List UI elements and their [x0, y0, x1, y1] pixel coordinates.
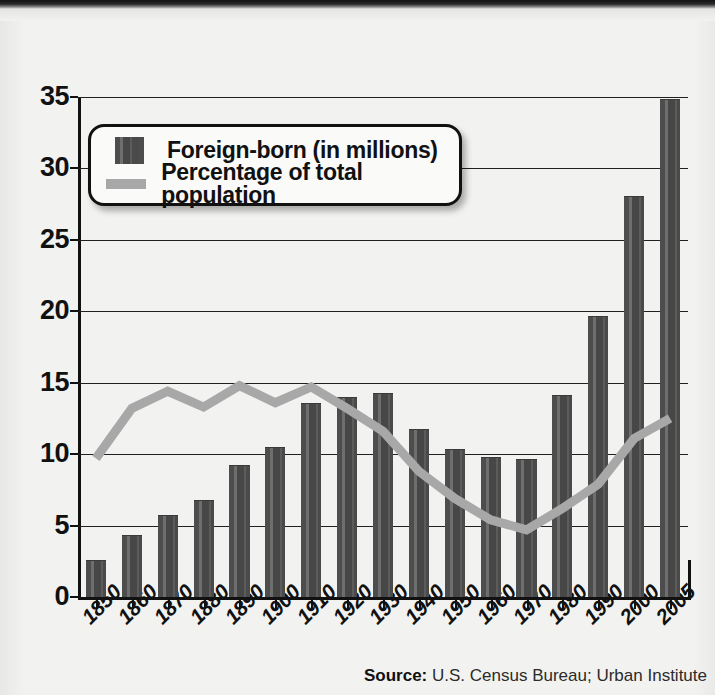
y-axis-tick-label: 15 [9, 369, 69, 396]
chart-legend: Foreign-born (in millions) Percentage of… [88, 124, 462, 206]
source-text: U.S. Census Bureau; Urban Institute [432, 666, 707, 685]
line-swatch-icon [106, 179, 146, 189]
y-axis-tick-label: 10 [9, 440, 69, 467]
y-axis-tick-label: 35 [9, 83, 69, 110]
y-tick-35 [70, 96, 78, 98]
y-axis-tick-label: 0 [9, 583, 69, 610]
y-tick-10 [70, 453, 78, 455]
source-attribution: Source: U.S. Census Bureau; Urban Instit… [364, 666, 707, 686]
percentage-line [96, 386, 670, 530]
legend-label-percentage: Percentage of total population [161, 161, 459, 207]
legend-swatch-wrap-line [91, 179, 161, 189]
y-tick-25 [70, 239, 78, 241]
legend-item-percentage: Percentage of total population [91, 167, 459, 201]
bar-swatch-icon [115, 137, 144, 164]
y-axis-tick-label: 5 [9, 512, 69, 539]
legend-swatch-wrap-bar [91, 137, 167, 164]
y-tick-0 [70, 596, 78, 598]
y-tick-20 [70, 310, 78, 312]
y-axis-tick-label: 30 [9, 154, 69, 181]
source-label: Source: [364, 666, 427, 685]
y-tick-15 [70, 382, 78, 384]
y-tick-5 [70, 525, 78, 527]
y-axis-tick-label: 25 [9, 226, 69, 253]
y-tick-30 [70, 167, 78, 169]
chart-figure: 05101520253035 1850186018701880189019001… [0, 0, 715, 695]
y-axis-tick-label: 20 [9, 297, 69, 324]
